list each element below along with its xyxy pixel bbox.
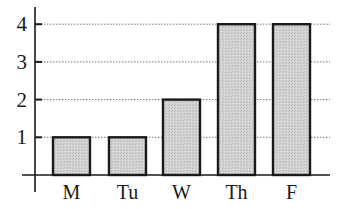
y-tick-label: 1 <box>17 125 28 149</box>
bars <box>53 24 310 175</box>
y-tick-label: 3 <box>17 50 28 74</box>
x-category-label: Th <box>225 181 247 203</box>
x-category-label: Tu <box>117 181 139 203</box>
y-tick-label: 2 <box>17 88 28 112</box>
x-category-label: F <box>286 181 297 203</box>
x-category-label: W <box>172 181 191 203</box>
y-ticks: 1234 <box>17 12 43 149</box>
bar-m <box>53 137 90 175</box>
bar-th <box>218 24 255 175</box>
bar-chart: 1234 MTuWThF <box>0 0 351 209</box>
bar-f <box>273 24 310 175</box>
x-category-labels: MTuWThF <box>63 181 297 203</box>
x-category-label: M <box>63 181 81 203</box>
y-tick-label: 4 <box>17 12 28 36</box>
bar-w <box>163 100 200 175</box>
bar-tu <box>109 137 146 175</box>
